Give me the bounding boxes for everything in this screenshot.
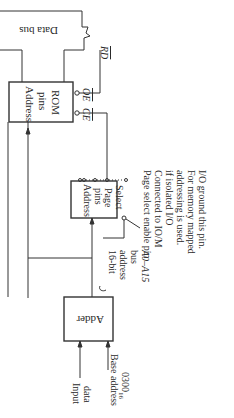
- rom-line2: pins: [37, 92, 49, 110]
- page-select-line4: Select: [113, 185, 125, 209]
- base-address-radix: 16: [117, 392, 125, 399]
- adder-label: Adder: [77, 314, 105, 326]
- base-address-value: 0300: [120, 372, 131, 392]
- oe-label: OE: [80, 88, 92, 101]
- note-line6: I/O ground this pin.: [196, 170, 208, 249]
- rom-line1: Address: [24, 86, 36, 122]
- ce-label: CE: [80, 108, 92, 121]
- rd-label: RD: [98, 46, 110, 59]
- input-data-line2: data: [81, 386, 93, 403]
- data-bus-label: Data bus: [19, 25, 58, 37]
- address-bus-line4: A0–A15: [139, 250, 151, 282]
- base-address-line2: 030016: [115, 372, 131, 399]
- rom-line3: ROM: [50, 90, 62, 115]
